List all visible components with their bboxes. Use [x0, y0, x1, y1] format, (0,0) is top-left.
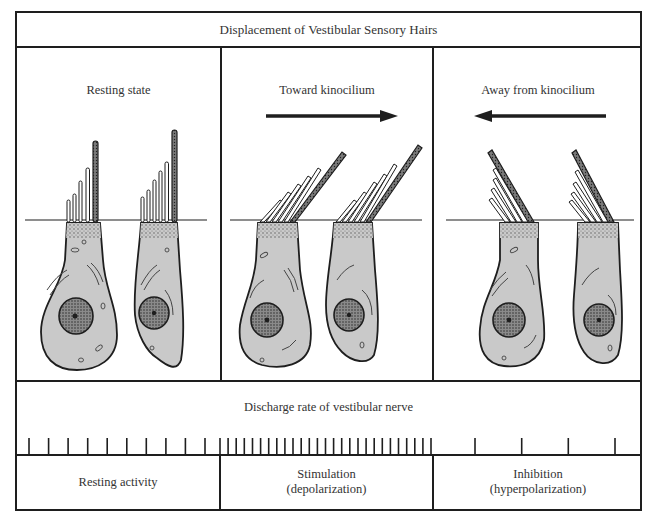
title-divider — [15, 46, 642, 48]
hair-cell-1 — [41, 141, 117, 370]
figure-title: Displacement of Vestibular Sensory Hairs — [15, 22, 642, 37]
hair-cell-illustration-toward — [222, 120, 432, 380]
panels-divider — [15, 380, 642, 382]
hair-cell-illustration-away — [434, 120, 642, 380]
panel-label-toward: Toward kinocilium — [222, 83, 432, 98]
hair-cell-2 — [569, 150, 622, 363]
spike-train — [15, 430, 642, 456]
response-label-resting: Resting activity — [17, 475, 219, 490]
panel-label-away: Away from kinocilium — [434, 83, 642, 98]
panel-label-resting: Resting state — [17, 83, 220, 98]
response-label-stimulation: Stimulation — [221, 467, 432, 482]
hair-cell-2 — [135, 130, 184, 367]
hair-cell-2 — [326, 145, 422, 361]
discharge-title: Discharge rate of vestibular nerve — [15, 400, 642, 415]
hair-cell-illustration-resting — [17, 120, 220, 380]
response-sublabel-depolarization: (depolarization) — [221, 482, 432, 497]
response-label-inhibition: Inhibition — [434, 467, 642, 482]
hair-cell-1 — [480, 150, 545, 366]
response-sublabel-hyperpolarization: (hyperpolarization) — [434, 482, 642, 497]
